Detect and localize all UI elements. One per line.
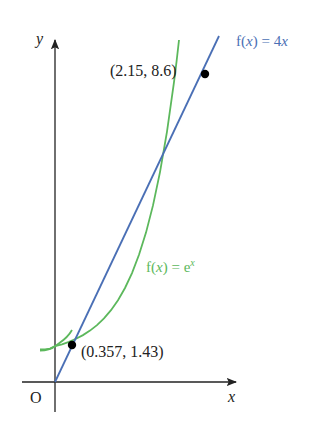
linear-curve-label: f(x) = 4x [236,33,288,50]
exp-label-var: x [156,259,163,275]
x-axis-label: x [228,388,235,406]
intersection-point-upper [201,70,209,78]
linear-line [55,36,219,382]
y-axis-label: y [36,30,43,48]
linear-label-prefix: f( [236,33,246,49]
origin-label: O [30,389,42,407]
point-label-upper: (2.15, 8.6) [110,62,177,80]
linear-label-var: x [246,33,253,49]
exponential-curve-main [40,40,179,350]
exponential-curve [40,330,72,351]
exp-label-prefix: f( [146,259,156,275]
exp-label-mid: ) = e [163,259,191,275]
linear-label-mid: ) = 4 [253,33,281,49]
intersection-point-lower [68,341,76,349]
point-label-lower: (0.357, 1.43) [81,343,164,361]
exp-label-sup: x [190,257,194,268]
exponential-curve-label: f(x) = ex [146,257,195,276]
linear-label-suffix: x [281,33,288,49]
